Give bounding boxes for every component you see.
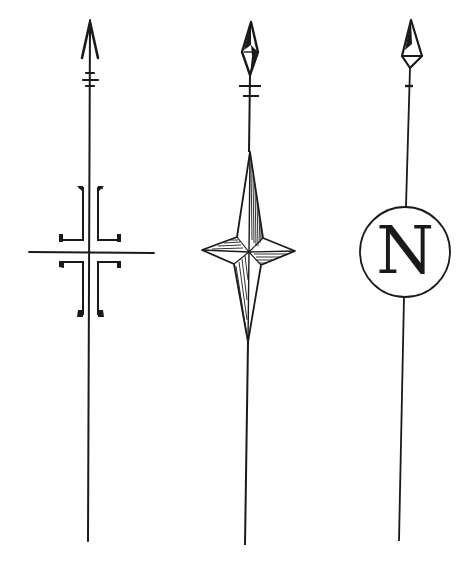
north-arrow-2 [202,22,295,545]
arrow-1-bracket-ll [61,262,83,314]
arrow-1-bracket-ul [61,188,83,240]
arrow-3-shaft-top [406,68,410,206]
north-arrow-1 [29,20,154,541]
arrow-1-crossbar [29,252,154,253]
arrow-1-bracket-ur [98,188,119,240]
arrow-2-shaft-bottom [245,342,248,545]
arrow-1-shaft [88,20,90,541]
arrow-1-bracket-lr [98,262,119,314]
arrow-3-shaft-bottom [399,297,404,541]
north-letter: N [375,214,435,288]
